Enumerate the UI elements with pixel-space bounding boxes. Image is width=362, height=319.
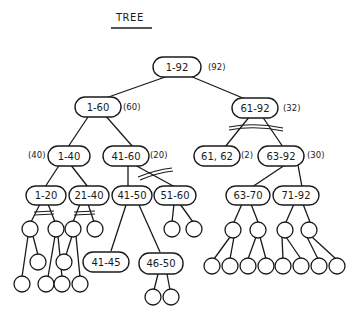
tree-diagram: TREE bbox=[0, 0, 362, 319]
node-61-92: 61-92 bbox=[232, 98, 278, 118]
node-46-50: 46-50 bbox=[139, 253, 183, 274]
node-63-92: 63-92 bbox=[258, 146, 304, 166]
node-51-60: 51-60 bbox=[154, 186, 196, 205]
svg-text:71-92: 71-92 bbox=[281, 190, 310, 201]
svg-text:46-50: 46-50 bbox=[146, 258, 175, 269]
svg-text:61-92: 61-92 bbox=[240, 103, 269, 114]
svg-text:41-45: 41-45 bbox=[91, 257, 120, 268]
svg-text:41-60: 41-60 bbox=[111, 151, 140, 162]
svg-text:1-40: 1-40 bbox=[58, 151, 81, 162]
svg-text:1-20: 1-20 bbox=[35, 190, 58, 201]
node-21-40: 21-40 bbox=[69, 186, 109, 205]
node-41-45: 41-45 bbox=[83, 252, 129, 272]
node-63-70: 63-70 bbox=[226, 186, 270, 205]
node-1-40: 1-40 bbox=[48, 146, 90, 166]
count-32: (32) bbox=[283, 103, 300, 113]
node-41-50: 41-50 bbox=[112, 186, 152, 205]
node-41-60: 41-60 bbox=[103, 146, 149, 166]
count-2: (2) bbox=[241, 150, 253, 160]
svg-text:1-92: 1-92 bbox=[166, 62, 189, 73]
svg-text:21-40: 21-40 bbox=[74, 190, 103, 201]
count-92: (92) bbox=[208, 62, 225, 72]
count-60: (60) bbox=[123, 102, 140, 112]
node-61-62: 61, 62 bbox=[194, 146, 240, 166]
node-71-92: 71-92 bbox=[273, 186, 319, 205]
count-40: (40) bbox=[28, 150, 45, 160]
diagram-title: TREE bbox=[115, 12, 144, 23]
svg-text:63-92: 63-92 bbox=[266, 151, 295, 162]
count-20: (20) bbox=[150, 150, 167, 160]
svg-text:51-60: 51-60 bbox=[160, 190, 189, 201]
node-1-92: 1-92 bbox=[153, 57, 201, 77]
count-30: (30) bbox=[307, 150, 324, 160]
node-1-60: 1-60 bbox=[75, 97, 121, 117]
node-1-20: 1-20 bbox=[26, 186, 66, 205]
svg-text:61, 62: 61, 62 bbox=[201, 151, 233, 162]
svg-text:41-50: 41-50 bbox=[117, 190, 146, 201]
svg-text:1-60: 1-60 bbox=[87, 102, 110, 113]
svg-text:63-70: 63-70 bbox=[233, 190, 262, 201]
